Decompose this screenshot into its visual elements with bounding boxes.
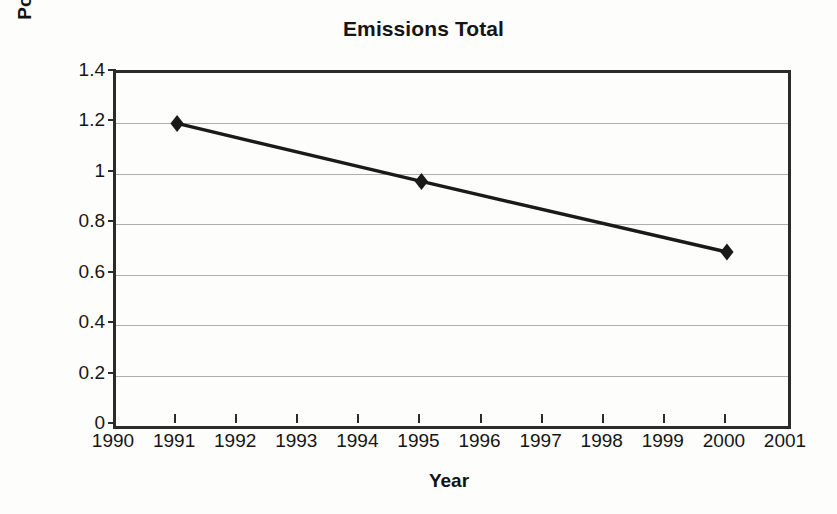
y-tick-label: 1.4 — [51, 59, 113, 81]
x-tick-mark — [418, 414, 420, 423]
y-tick-label: 1 — [51, 160, 113, 182]
data-series-line — [116, 73, 788, 426]
y-tick-mark — [108, 69, 116, 71]
y-tick-label: 1.2 — [51, 109, 113, 131]
x-tick-mark — [235, 414, 237, 423]
plot-area — [113, 70, 791, 429]
y-tick-mark — [108, 170, 116, 172]
x-tick-mark — [480, 414, 482, 423]
x-tick-mark — [663, 414, 665, 423]
data-point-marker — [720, 244, 733, 261]
series-line — [177, 123, 727, 252]
y-tick-mark — [108, 321, 116, 323]
x-axis-title: Year — [113, 470, 785, 492]
y-tick-label: 0.6 — [51, 261, 113, 283]
y-tick-label: 0.4 — [51, 311, 113, 333]
data-point-marker — [415, 173, 428, 190]
x-tick-mark — [296, 414, 298, 423]
y-tick-mark — [108, 119, 116, 121]
x-tick-mark — [602, 414, 604, 423]
x-tick-mark — [724, 414, 726, 423]
y-tick-label: 0.2 — [51, 362, 113, 384]
x-tick-mark — [174, 414, 176, 423]
chart-figure: Emissions Total Pounds (in billions) 00.… — [0, 0, 837, 514]
y-tick-mark — [108, 372, 116, 374]
x-tick-mark — [541, 414, 543, 423]
x-tick-label: 2001 — [745, 430, 825, 452]
y-tick-label: 0.8 — [51, 210, 113, 232]
data-point-marker — [170, 115, 183, 132]
y-axis-title: Pounds (in billions) — [6, 0, 44, 108]
chart-title: Emissions Total — [0, 17, 837, 41]
y-tick-mark — [108, 271, 116, 273]
y-tick-mark — [108, 422, 116, 424]
x-tick-mark — [357, 414, 359, 423]
y-tick-mark — [108, 220, 116, 222]
